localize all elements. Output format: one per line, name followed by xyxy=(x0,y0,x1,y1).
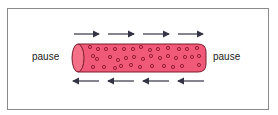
cylinder-diagram xyxy=(0,0,278,115)
